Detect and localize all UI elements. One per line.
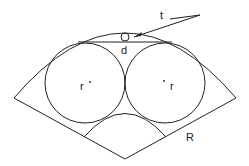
left-circle xyxy=(45,43,125,123)
label-d: d xyxy=(121,44,127,56)
sector-edges xyxy=(14,98,236,159)
label-t: t xyxy=(160,9,163,21)
t-pointer-line xyxy=(134,15,200,37)
label-r-left: r xyxy=(80,80,84,92)
left-center-dot xyxy=(89,81,91,83)
right-center-dot xyxy=(163,80,165,82)
right-circle xyxy=(125,43,205,123)
label-R: R xyxy=(186,131,194,143)
small-circle xyxy=(121,33,129,41)
bottom-arc xyxy=(84,114,166,138)
geometry-diagram: t d r r R xyxy=(0,0,249,166)
label-r-right: r xyxy=(170,80,174,92)
